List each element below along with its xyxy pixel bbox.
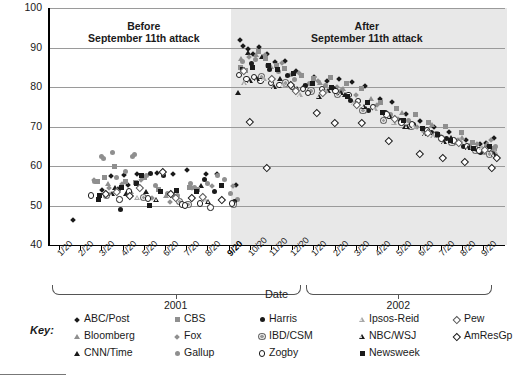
legend-item-label: CBS: [184, 310, 206, 327]
gridline: [50, 127, 505, 128]
chart-root: Approval rating 405060708090100 1/202/20…: [0, 0, 529, 379]
y-tick-label: 70: [12, 120, 42, 132]
legend-marker-icon: [170, 312, 184, 326]
data-point: [129, 192, 132, 195]
data-point: [137, 198, 140, 200]
data-point: [221, 186, 224, 189]
data-point: [201, 186, 204, 188]
data-point: [107, 196, 110, 199]
data-point: [215, 192, 218, 195]
legend-column: ABC/PostBloombergCNN/Time: [70, 310, 135, 361]
data-point: [178, 196, 181, 199]
gridline: [50, 166, 505, 167]
data-point: [198, 190, 201, 193]
data-point: [103, 158, 106, 161]
legend: Key: ABC/PostBloombergCNN/TimeCBSFoxGall…: [30, 310, 510, 372]
legend-item[interactable]: IBD/CSM: [255, 327, 313, 344]
annotation-after: After September 11th attack: [229, 20, 505, 44]
data-point: [145, 177, 148, 180]
legend-item-label: Ipsos-Reid: [369, 310, 419, 327]
data-point: [108, 184, 111, 186]
data-point: [101, 156, 104, 159]
data-point: [99, 196, 102, 199]
legend-item[interactable]: Ipsos-Reid: [355, 310, 420, 327]
data-point: [118, 189, 121, 191]
legend-item-label: ABC/Post: [84, 310, 130, 327]
legend-item[interactable]: CBS: [170, 310, 214, 327]
legend-item-label: Zogby: [269, 344, 298, 361]
annotation-before: Before September 11th attack: [59, 20, 229, 44]
data-point: [159, 190, 162, 193]
data-point: [150, 173, 153, 176]
data-point: [161, 192, 164, 195]
data-point: [120, 209, 123, 212]
data-point: [148, 198, 151, 201]
data-point: [180, 202, 183, 205]
legend-marker-icon: [450, 312, 464, 326]
data-point: [142, 176, 145, 179]
y-tick-label: 50: [12, 199, 42, 211]
legend-item[interactable]: Harris: [255, 310, 313, 327]
legend-item[interactable]: Bloomberg: [70, 327, 135, 344]
data-point: [126, 194, 129, 196]
data-point: [211, 207, 214, 210]
legend-item-label: Newsweek: [369, 344, 420, 361]
data-point: [121, 188, 124, 191]
data-point: [91, 196, 94, 199]
legend-marker-icon: [255, 329, 269, 343]
data-point: [110, 194, 113, 196]
legend-item-label: Bloomberg: [84, 327, 135, 344]
gridline: [50, 8, 505, 9]
data-point: [147, 176, 150, 179]
legend-item[interactable]: Gallup: [170, 344, 214, 361]
data-point: [224, 180, 227, 183]
data-point: [104, 178, 107, 181]
data-point: [177, 190, 180, 193]
legend-item[interactable]: AmResGp: [450, 327, 512, 344]
legend-marker-icon: [70, 329, 84, 343]
legend-item[interactable]: Fox: [170, 327, 214, 344]
legend-marker-icon: [70, 346, 84, 360]
y-tick-label: 100: [12, 1, 42, 13]
legend-marker-icon: [355, 312, 369, 326]
y-tick-label: 60: [12, 159, 42, 171]
legend-column: HarrisIBD/CSMZogby: [255, 310, 313, 361]
annotation-after-line1: After: [355, 20, 380, 32]
data-point: [116, 178, 119, 181]
legend-item[interactable]: Zogby: [255, 344, 313, 361]
data-point: [126, 182, 129, 185]
data-point: [97, 181, 100, 184]
legend-item-label: Fox: [184, 327, 202, 344]
data-point: [166, 196, 169, 198]
data-point: [197, 192, 200, 195]
data-point: [167, 194, 170, 197]
data-point: [119, 200, 122, 203]
legend-item-label: NBC/WSJ: [369, 327, 416, 344]
legend-marker-icon: [170, 346, 184, 360]
data-point: [126, 172, 129, 175]
legend-item[interactable]: CNN/Time: [70, 344, 135, 361]
y-tick-label: 40: [12, 238, 42, 250]
data-point: [98, 200, 101, 203]
legend-item[interactable]: NBC/WSJ: [355, 327, 420, 344]
legend-item[interactable]: Pew: [450, 310, 512, 327]
legend-marker-icon: [355, 346, 369, 360]
legend-column: CBSFoxGallup: [170, 310, 214, 361]
annotation-before-line1: Before: [127, 20, 160, 32]
data-point: [172, 196, 175, 199]
legend-item-label: IBD/CSM: [269, 327, 313, 344]
legend-item[interactable]: ABC/Post: [70, 310, 135, 327]
gridline: [50, 87, 505, 88]
x-axis-title: Date: [247, 288, 307, 300]
data-point: [144, 198, 147, 201]
legend-item-label: Gallup: [184, 344, 214, 361]
gridline: [50, 48, 505, 49]
data-point: [113, 152, 116, 155]
data-point: [207, 184, 210, 187]
legend-marker-icon: [70, 312, 84, 326]
data-point: [115, 188, 118, 190]
legend-column: Ipsos-ReidNBC/WSJNewsweek: [355, 310, 420, 361]
legend-item[interactable]: Newsweek: [355, 344, 420, 361]
y-tick-label: 90: [12, 41, 42, 53]
data-point: [135, 183, 138, 186]
